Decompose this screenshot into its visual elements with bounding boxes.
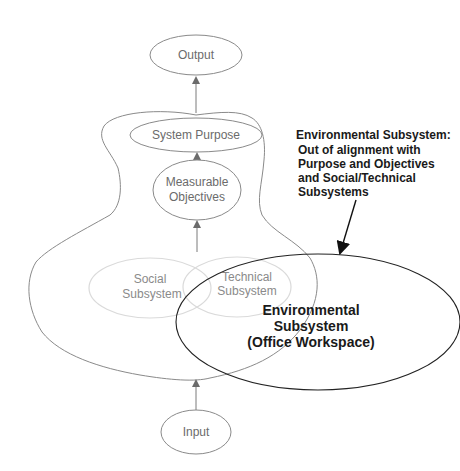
annotation-title: Environmental Subsystem: — [296, 128, 451, 142]
annotation-line4: Subsystems — [298, 185, 369, 199]
sociotechnical-diagram: Output System Purpose Measurable Objecti… — [0, 0, 460, 471]
annotation-environmental-misalignment: Environmental Subsystem: Out of alignmen… — [296, 128, 451, 250]
system-purpose-label: System Purpose — [152, 128, 240, 142]
social-subsystem-label-line2: Subsystem — [122, 287, 181, 301]
technical-subsystem-label-line1: Technical — [222, 270, 272, 284]
environmental-subsystem-label-line1: Environmental — [262, 302, 359, 318]
environmental-subsystem-label-line3: (Office Workspace) — [247, 334, 374, 350]
social-subsystem-label-line1: Social — [134, 272, 167, 286]
input-label: Input — [183, 425, 210, 439]
annotation-line1: Out of alignment with — [298, 143, 421, 157]
output-label: Output — [178, 48, 215, 62]
node-input: Input — [161, 410, 231, 454]
annotation-pointer-arrow — [341, 200, 356, 250]
annotation-line3: and Social/Technical — [298, 171, 416, 185]
node-social-subsystem: Social Subsystem — [89, 258, 211, 318]
annotation-line2: Purpose and Objectives — [298, 157, 435, 171]
node-measurable-objectives: Measurable Objectives — [153, 160, 241, 220]
measurable-objectives-label-line1: Measurable — [166, 175, 229, 189]
node-output: Output — [150, 35, 242, 75]
technical-subsystem-label-line2: Subsystem — [217, 284, 276, 298]
measurable-objectives-label-line2: Objectives — [169, 190, 225, 204]
node-environmental-subsystem: Environmental Subsystem (Office Workspac… — [176, 254, 460, 390]
node-system-purpose: System Purpose — [130, 118, 262, 152]
environmental-subsystem-label-line2: Subsystem — [274, 318, 349, 334]
